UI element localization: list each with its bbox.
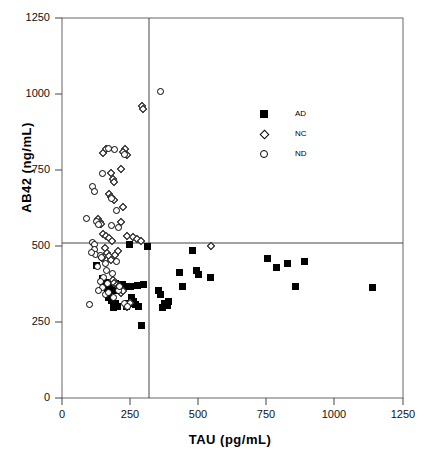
data-point-nd (113, 258, 120, 265)
data-point-ad (126, 241, 133, 248)
data-point-ad (369, 284, 376, 291)
data-point-nd (108, 195, 115, 202)
data-point-nd (91, 188, 98, 195)
data-point-ad (292, 283, 299, 290)
data-point-nc (119, 203, 127, 211)
data-point-ad (195, 271, 202, 278)
data-point-ad (157, 291, 164, 298)
data-point-nd (116, 283, 123, 290)
data-point-nc (117, 165, 125, 173)
data-point-nd (99, 170, 106, 177)
data-point-nd (121, 151, 128, 158)
data-point-ad (264, 255, 271, 262)
data-point-nd (108, 222, 115, 229)
data-point-nd (115, 224, 122, 231)
data-point-ad (301, 258, 308, 265)
data-point-ad (114, 303, 121, 310)
data-point-ad (165, 298, 172, 305)
data-point-ad (207, 274, 214, 281)
data-point-nd (95, 221, 102, 228)
data-point-ad (189, 247, 196, 254)
scatter-points-layer (0, 0, 425, 460)
data-point-ad (135, 303, 142, 310)
data-point-ad (176, 269, 183, 276)
data-point-nd (157, 88, 164, 95)
data-point-nd (102, 260, 109, 267)
data-point-nd (124, 303, 131, 310)
data-point-nd (111, 146, 118, 153)
data-point-ad (273, 264, 280, 271)
data-point-ad (144, 243, 151, 250)
data-point-ad (284, 260, 291, 267)
data-point-nd (86, 301, 93, 308)
data-point-ad (138, 322, 145, 329)
scatter-chart-figure: 1250 1000 750 500 250 0 0 250 500 750 10… (0, 0, 425, 460)
data-point-ad (140, 281, 147, 288)
data-point-nc (206, 242, 214, 250)
data-point-nd (94, 263, 101, 270)
data-point-nc (107, 237, 115, 245)
data-point-nd (109, 270, 116, 277)
data-point-nd (83, 215, 90, 222)
data-point-ad (179, 283, 186, 290)
data-point-nd (113, 207, 120, 214)
